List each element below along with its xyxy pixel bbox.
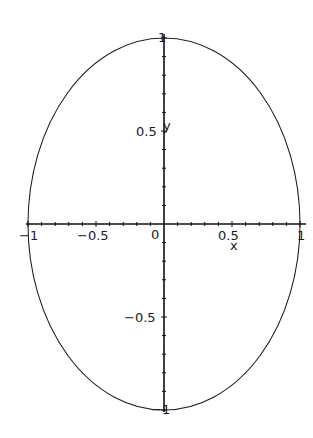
x-axis-label: x <box>230 238 238 253</box>
plot-canvas: −1 −0.5 0 0.5 1 x 1 0.5 y −0.5 −1 <box>0 0 313 438</box>
y-axis-label: y <box>163 118 171 133</box>
x-tick-label-pos1: 1 <box>297 228 305 243</box>
y-tick-label-neg1: −1 <box>151 402 170 417</box>
x-tick-label-neg05: −0.5 <box>77 228 109 243</box>
x-tick-label-neg1: −1 <box>19 228 38 243</box>
y-tick-label-neg05: −0.5 <box>124 310 156 325</box>
x-tick-label-zero: 0 <box>151 227 159 242</box>
y-tick-label-pos1: 1 <box>158 30 166 45</box>
y-tick-label-pos05: 0.5 <box>136 124 157 139</box>
plot-svg: −1 −0.5 0 0.5 1 x 1 0.5 y −0.5 −1 <box>0 0 313 438</box>
